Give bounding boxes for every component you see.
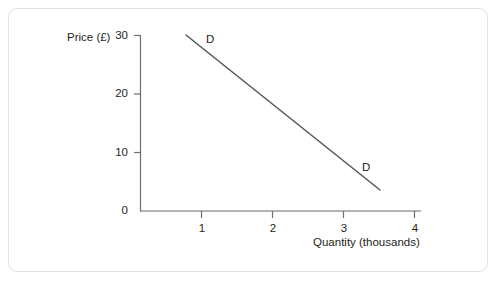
y-axis-title: Price (£): [67, 31, 110, 43]
x-tick-label-1: 1: [194, 222, 210, 234]
y-tick-label-20: 20: [108, 87, 128, 99]
y-tick-label-0: 0: [108, 204, 128, 216]
x-tick-label-2: 2: [265, 222, 281, 234]
y-tick-label-10: 10: [108, 146, 128, 158]
x-tick-label-3: 3: [336, 222, 352, 234]
y-tick-label-30: 30: [108, 29, 128, 41]
demand-curve-line: [186, 35, 380, 190]
x-axis-title: Quantity (thousands): [313, 236, 420, 248]
demand-curve-label-bottom: D: [362, 161, 370, 173]
demand-curve-label-top: D: [206, 33, 214, 45]
x-tick-label-4: 4: [407, 222, 423, 234]
